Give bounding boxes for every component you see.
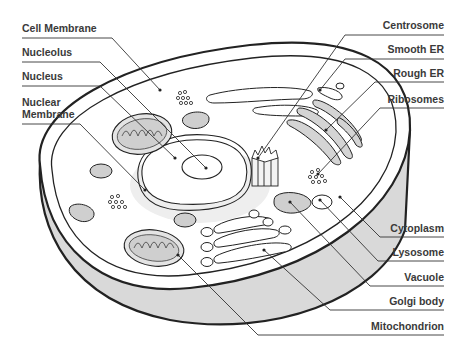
label-lysosome: Lysosome: [392, 246, 444, 258]
label-ribosomes: Ribosomes: [387, 93, 444, 105]
label-nuclear-membrane-line2: Membrane: [22, 108, 75, 120]
label-nuclear-membrane-line1: Nuclear: [22, 96, 61, 108]
label-vacuole: Vacuole: [404, 271, 444, 283]
label-mitochondrion: Mitochondrion: [371, 320, 444, 332]
label-nucleus: Nucleus: [22, 70, 63, 82]
label-golgi-body: Golgi body: [389, 295, 444, 307]
label-nucleolus: Nucleolus: [22, 46, 72, 58]
vacuole-blob-4: [174, 213, 196, 227]
vacuole-blob-2: [90, 164, 112, 178]
label-centrosome: Centrosome: [383, 19, 444, 31]
vacuole-blob-1: [182, 112, 209, 129]
label-rough-er: Rough ER: [393, 67, 444, 79]
label-cytoplasm: Cytoplasm: [390, 222, 444, 234]
label-smooth-er: Smooth ER: [387, 43, 444, 55]
label-cell-membrane: Cell Membrane: [22, 22, 97, 34]
lysosome-shape: [274, 193, 311, 214]
cell-diagram: Cell Membrane Nucleolus Nucleus Nuclear …: [0, 0, 465, 359]
centrosome-shape: [252, 146, 278, 186]
nucleolus-shape: [182, 155, 222, 179]
